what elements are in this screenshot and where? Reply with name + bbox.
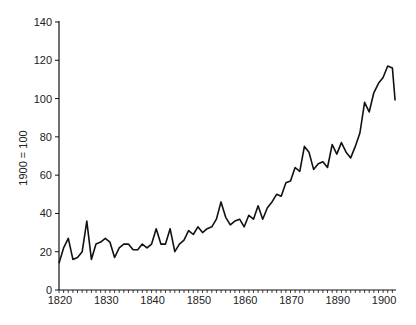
x-tick-label: 1870 [279, 294, 303, 306]
y-tick-label: 40 [40, 207, 52, 219]
y-tick-label: 120 [34, 54, 52, 66]
line-chart: 020406080100120140 182018301840185018601… [0, 0, 416, 325]
x-tick-label: 1820 [48, 294, 72, 306]
y-tick-label: 20 [40, 246, 52, 258]
y-tick-label: 80 [40, 131, 52, 143]
y-axis: 020406080100120140 [34, 16, 59, 296]
x-tick-label: 1830 [94, 294, 118, 306]
x-axis: 18201830184018501860187018901900 [48, 290, 397, 306]
x-tick-label: 1890 [326, 294, 350, 306]
x-tick-label: 1860 [233, 294, 257, 306]
x-tick-label: 1900 [372, 294, 396, 306]
x-tick-label: 1850 [187, 294, 211, 306]
y-axis-title: 1900 = 100 [17, 130, 29, 185]
series-line [59, 66, 395, 263]
y-tick-label: 140 [34, 16, 52, 28]
y-tick-label: 100 [34, 93, 52, 105]
x-tick-label: 1840 [140, 294, 164, 306]
y-tick-label: 60 [40, 169, 52, 181]
